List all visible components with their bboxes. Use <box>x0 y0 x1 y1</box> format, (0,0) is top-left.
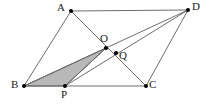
vertex-dot-Q <box>114 51 118 55</box>
geometry-figure: A D B C O Q P <box>0 0 217 105</box>
segment-PD <box>65 10 188 86</box>
vertex-dot-B <box>22 84 26 88</box>
point-label-O: O <box>100 33 108 44</box>
segment-AD <box>71 10 188 11</box>
vertex-dot-C <box>144 84 148 88</box>
point-label-A: A <box>57 2 65 13</box>
segment-AC <box>71 11 146 86</box>
point-label-B: B <box>11 79 18 90</box>
segment-CD <box>146 10 188 86</box>
point-label-Q: Q <box>119 50 127 61</box>
point-label-P: P <box>61 89 67 100</box>
vertex-dot-D <box>186 8 190 12</box>
vertex-dot-A <box>69 9 73 13</box>
point-label-D: D <box>192 1 200 12</box>
point-label-C: C <box>149 79 156 90</box>
figure-canvas <box>0 0 217 105</box>
vertex-dot-O <box>104 46 108 50</box>
